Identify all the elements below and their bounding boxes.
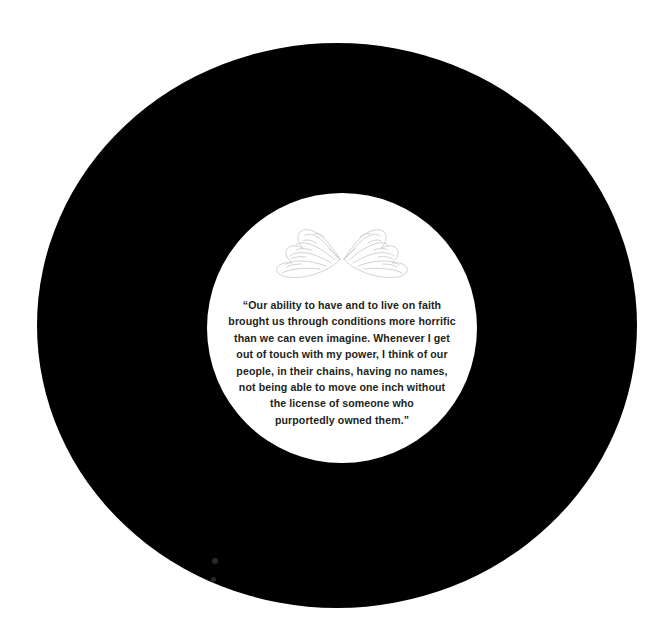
quote-line: “Our ability to have and to live on fait… [219, 297, 465, 313]
quote-text: “Our ability to have and to live on fait… [219, 297, 465, 428]
quote-line: people, in their chains, having no names… [219, 363, 465, 379]
right-wing [344, 230, 407, 278]
quote-line: than we can even imagine. Whenever I get [219, 330, 465, 346]
quote-line: brought us through conditions more horri… [219, 313, 465, 329]
angel-wings-icon [254, 223, 430, 281]
image-canvas: “Our ability to have and to live on fait… [0, 0, 668, 637]
white-circle: “Our ability to have and to live on fait… [207, 193, 477, 463]
quote-line: not being able to move one inch without [219, 379, 465, 395]
left-wing [277, 230, 340, 278]
quote-line: out of touch with my power, I think of o… [219, 346, 465, 362]
speck-lower [211, 577, 216, 582]
quote-line: the license of someone who [219, 395, 465, 411]
quote-line: purportedly owned them.” [219, 412, 465, 428]
speck-upper [212, 558, 218, 564]
